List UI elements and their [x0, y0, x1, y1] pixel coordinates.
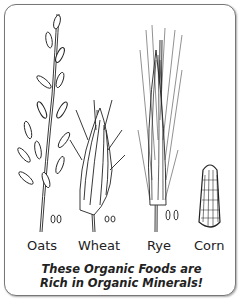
label-wheat: Wheat	[78, 238, 120, 253]
grain-illustrations	[0, 0, 243, 301]
wheat-drawing	[70, 100, 125, 232]
label-rye: Rye	[147, 238, 171, 253]
caption-line-2: Rich in Organic Minerals!	[0, 276, 243, 290]
caption-line-1: These Organic Foods are	[0, 262, 243, 276]
oats-drawing	[16, 14, 72, 232]
corn-drawing	[199, 165, 220, 227]
label-oats: Oats	[27, 238, 57, 253]
rye-drawing	[138, 25, 182, 232]
label-corn: Corn	[194, 238, 224, 253]
